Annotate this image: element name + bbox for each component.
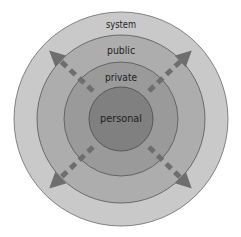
concentric-circles-diagram: system public private personal [0,0,241,237]
label-public: public [107,44,135,56]
label-system: system [106,18,136,30]
label-personal: personal [100,112,142,125]
label-private: private [105,71,137,83]
